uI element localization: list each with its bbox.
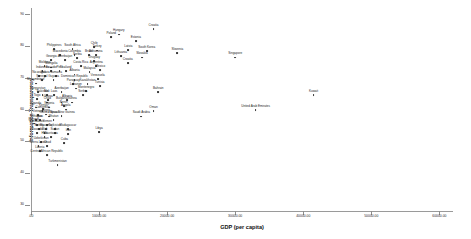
data-point	[53, 79, 55, 81]
data-point	[313, 94, 315, 96]
data-point-label: Madagascar	[59, 124, 76, 127]
data-point	[75, 88, 77, 90]
data-point-label: South Africa	[64, 44, 80, 47]
data-point	[153, 28, 155, 30]
data-point	[98, 131, 100, 133]
y-tick-label: 50	[2, 139, 24, 142]
y-tick-label: 80	[2, 44, 24, 47]
data-point-label: Turkmenistan	[48, 160, 66, 163]
data-point	[118, 34, 120, 36]
data-point-label: Cuba	[61, 138, 68, 141]
data-point-label: Estonia	[131, 36, 141, 39]
y-tick-label: 30	[2, 203, 24, 206]
x-tick-label: 20000.00	[147, 215, 187, 218]
x-tick-label: 60000.00	[419, 215, 459, 218]
data-point	[120, 55, 122, 57]
data-point	[140, 116, 142, 118]
data-point-label: Azerbaijan	[58, 55, 72, 58]
x-tick-label: .00	[11, 215, 51, 218]
data-point	[141, 57, 143, 59]
data-point-label: Mozambique	[27, 78, 44, 81]
data-point-label: Georgia	[46, 55, 57, 58]
plot-area	[31, 8, 453, 211]
data-point	[99, 69, 101, 71]
data-point-label: Angola	[61, 104, 71, 107]
data-point	[76, 57, 78, 59]
y-tick-mark	[25, 173, 30, 174]
y-tick-label: 70	[2, 76, 24, 79]
data-point-label: Mali	[44, 90, 50, 93]
data-point-label: Philippines	[47, 44, 62, 47]
data-point-label: Libya	[95, 127, 102, 130]
data-point	[64, 59, 66, 61]
data-point-label: Guyana	[48, 74, 59, 77]
data-point-label: Kenya	[39, 104, 48, 107]
data-point	[255, 109, 257, 111]
data-point-label: Bhutan	[49, 115, 59, 118]
x-axis-line	[31, 211, 453, 212]
x-tick-label: 30000.00	[215, 215, 255, 218]
data-point	[157, 91, 159, 93]
data-point	[50, 136, 52, 138]
y-tick-mark	[25, 14, 30, 15]
data-point	[96, 50, 98, 52]
data-point	[99, 85, 101, 87]
y-tick-label: 90	[2, 13, 24, 16]
data-point-label: Ecuador	[46, 66, 57, 69]
data-point-label: Serbia	[73, 53, 82, 56]
data-point	[80, 65, 82, 67]
data-point-label: Croatia	[149, 24, 159, 27]
x-tick-label: 50000.00	[351, 215, 391, 218]
data-point	[35, 83, 37, 85]
data-point-label: Iran	[66, 129, 71, 132]
x-tick-label: 10000.00	[79, 215, 119, 218]
data-point-label: Slovenia	[171, 48, 183, 51]
y-tick-mark	[25, 110, 30, 111]
data-point-label: Venezuela	[91, 74, 105, 77]
data-point-label: Uruguay	[89, 56, 101, 59]
data-point-label: United Arab Emirates	[241, 105, 270, 108]
data-point-label: Lithuania	[115, 51, 127, 54]
data-point-label: Poland	[107, 32, 117, 35]
data-point-label: Togo	[34, 93, 41, 96]
data-point-label: Macedonia	[53, 50, 68, 53]
data-point-label: Mexico	[96, 65, 106, 68]
data-point	[57, 164, 59, 166]
data-point	[127, 49, 129, 51]
data-point	[61, 91, 63, 93]
data-point	[110, 36, 112, 38]
data-point-label: Chad	[44, 97, 51, 100]
data-point	[65, 70, 67, 72]
data-point	[46, 145, 48, 147]
data-point	[36, 132, 38, 134]
x-tick-label: 40000.00	[283, 215, 323, 218]
y-tick-mark	[25, 46, 30, 47]
data-point-label: Kuwait	[309, 90, 318, 93]
data-point-label: Laos	[51, 90, 58, 93]
data-point-label: Serbia	[78, 90, 87, 93]
data-point	[82, 94, 84, 96]
data-point-label: Albania	[70, 69, 80, 72]
data-point	[46, 154, 48, 156]
data-point-label: Slovakia	[136, 52, 148, 55]
data-point-label: Saudi Arabia	[133, 111, 150, 114]
data-point	[234, 57, 236, 59]
data-point	[67, 133, 69, 135]
data-point-label: Latvia	[124, 45, 132, 48]
data-point	[127, 62, 129, 64]
data-point-label: Costa Rica	[73, 61, 88, 64]
data-point	[36, 98, 38, 100]
y-tick-mark	[25, 205, 30, 206]
y-tick-label: 60	[2, 108, 24, 111]
data-point	[61, 115, 63, 117]
data-point	[176, 52, 178, 54]
y-tick-label: 40	[2, 171, 24, 174]
scatter-chart: Information Transparency 90807060504030 …	[0, 0, 471, 239]
data-point-label: Oman	[149, 106, 157, 109]
data-point	[63, 142, 65, 144]
data-point	[135, 40, 137, 42]
data-point-label: Guinea	[67, 97, 77, 100]
data-point-label: Malaysia	[83, 67, 95, 70]
x-axis-label: GDP (per capita)	[31, 224, 453, 230]
data-point	[71, 102, 73, 104]
